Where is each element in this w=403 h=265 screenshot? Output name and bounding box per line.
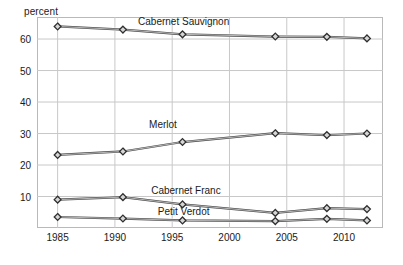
data-point-marker <box>54 196 61 203</box>
x-tick-label: 2005 <box>267 232 307 243</box>
data-point-marker <box>54 152 61 159</box>
series-label-merlot: Merlot <box>149 119 177 130</box>
data-point-marker <box>272 130 279 137</box>
data-point-marker <box>272 218 279 225</box>
data-point-marker <box>323 205 330 212</box>
gridlines-horizontal <box>37 39 383 196</box>
x-tick-label: 1985 <box>38 232 78 243</box>
data-point-marker <box>364 217 371 224</box>
y-tick-label: 50 <box>5 65 31 76</box>
data-point-marker <box>364 35 371 42</box>
chart-container: percent 102030405060 1985199019952000200… <box>0 0 403 265</box>
y-tick-label: 10 <box>5 191 31 202</box>
data-point-marker <box>179 217 186 224</box>
x-tick-label: 1990 <box>95 232 135 243</box>
data-point-marker <box>179 139 186 146</box>
x-tick-label: 1995 <box>152 232 192 243</box>
series-label-petit-verdot: Petit Verdot <box>158 206 210 217</box>
data-point-marker <box>120 194 127 201</box>
line-chart-plot <box>0 0 403 265</box>
data-point-marker <box>54 23 61 30</box>
data-point-marker <box>120 26 127 33</box>
x-tick-label: 2010 <box>324 232 364 243</box>
y-tick-label: 30 <box>5 128 31 139</box>
y-tick-label: 40 <box>5 97 31 108</box>
series-label-cabernet-franc: Cabernet Franc <box>151 185 220 196</box>
x-tick-label: 2000 <box>209 232 249 243</box>
data-point-marker <box>54 214 61 221</box>
data-point-marker <box>120 148 127 155</box>
y-tick-label: 20 <box>5 160 31 171</box>
data-point-marker <box>179 31 186 38</box>
data-point-marker <box>272 209 279 216</box>
data-point-marker <box>323 215 330 222</box>
data-point-marker <box>120 215 127 222</box>
series-line-halo <box>58 197 367 213</box>
data-point-marker <box>323 132 330 139</box>
data-point-marker <box>364 206 371 213</box>
series-label-cabernet-sauvignon: Cabernet Sauvignon <box>138 16 229 27</box>
y-tick-label: 60 <box>5 34 31 45</box>
data-point-marker <box>364 130 371 137</box>
